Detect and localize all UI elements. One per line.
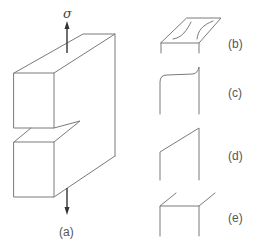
upper-front-face bbox=[14, 73, 54, 128]
panel-label-d: (d) bbox=[228, 149, 243, 163]
panel-label-c: (c) bbox=[228, 86, 242, 100]
panel-label-e: (e) bbox=[228, 211, 243, 225]
fracture-diagram: σ (a) (b) (c) (d) (e) bbox=[0, 0, 257, 249]
stress-arrow-up-icon bbox=[65, 21, 70, 53]
bottom-edge bbox=[54, 156, 115, 197]
notch bbox=[54, 121, 80, 142]
panel-b: (b) bbox=[161, 18, 243, 53]
top-face bbox=[14, 34, 115, 73]
panel-label-b: (b) bbox=[228, 37, 243, 51]
notch-left-edge bbox=[14, 128, 31, 142]
panel-d: (d) bbox=[160, 128, 243, 180]
panel-c: (c) bbox=[160, 67, 242, 114]
panel-e: (e) bbox=[160, 193, 243, 236]
lower-front-face bbox=[14, 142, 54, 197]
stress-arrow-down-icon bbox=[65, 188, 70, 215]
stress-symbol: σ bbox=[63, 6, 73, 21]
panel-label-a: (a) bbox=[59, 225, 74, 239]
panel-a-specimen: σ (a) bbox=[14, 6, 115, 239]
